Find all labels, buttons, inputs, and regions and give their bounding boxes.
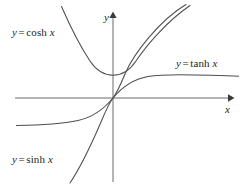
cosh-label-equals: = [17, 26, 26, 38]
curve-label-cosh: y=cosh x [12, 26, 55, 38]
tanh-label-arg: x [213, 57, 218, 69]
cosh-label-arg: x [50, 26, 55, 38]
y-axis-label: y [104, 11, 109, 23]
x-axis-label: x [225, 103, 230, 115]
y-axis [109, 12, 116, 183]
sinh-label-fn: sinh [26, 153, 45, 165]
x-axis [15, 94, 235, 102]
sinh-label-equals: = [17, 153, 26, 165]
curve-label-sinh: y=sinh x [12, 153, 53, 165]
cosh-label-fn: cosh [26, 26, 47, 38]
tanh-label-equals: = [181, 57, 190, 69]
sinh-label-arg: x [48, 153, 53, 165]
tanh-label-fn: tanh [190, 57, 209, 69]
curve-tanh [17, 74, 240, 125]
curve-label-tanh: y=tanh x [176, 57, 217, 69]
hyperbolic-functions-figure: y=cosh x y=tanh x y=sinh x y x [0, 0, 239, 185]
y-axis-arrowhead [109, 12, 116, 19]
x-axis-arrowhead [228, 94, 235, 102]
curve-sinh [70, 5, 186, 184]
